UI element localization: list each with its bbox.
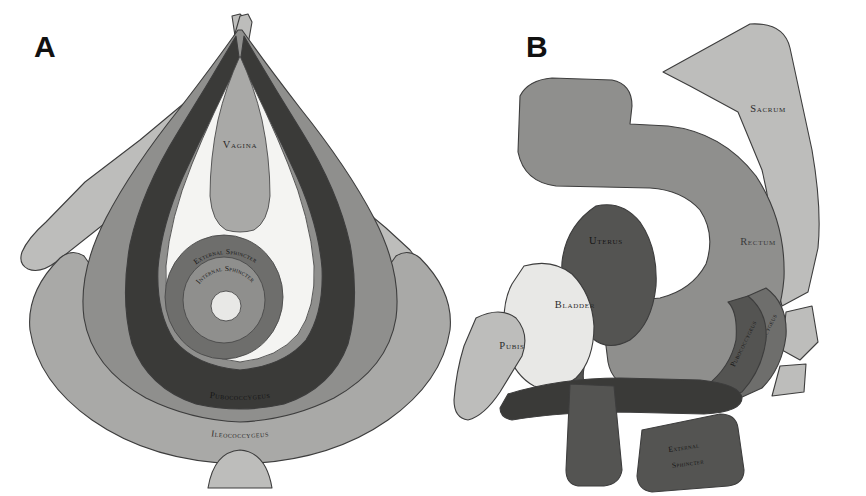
panel-b-label-bladder: Bladder [555,299,595,310]
anatomy-figure: A Vagina External Sphincter Internal S [0,0,866,496]
panel-b-vaginal-canal [566,384,622,486]
figure-canvas: A Vagina External Sphincter Internal S [0,0,866,496]
anal-canal-lumen [211,291,241,321]
panel-b-label-pubis: Pubis [499,340,524,351]
panel-b-label-sacrum: Sacrum [750,103,786,114]
panel-a-label-ileococcygeus: Ileococcygeus [211,428,269,440]
panel-b-label-uterus: Uterus [589,235,623,246]
panel-a-letter: A [34,30,56,63]
panel-b-letter: B [526,30,548,63]
panel-a-label-vagina: Vagina [223,139,257,150]
panel-b-label-rectum: Rectum [740,236,776,247]
